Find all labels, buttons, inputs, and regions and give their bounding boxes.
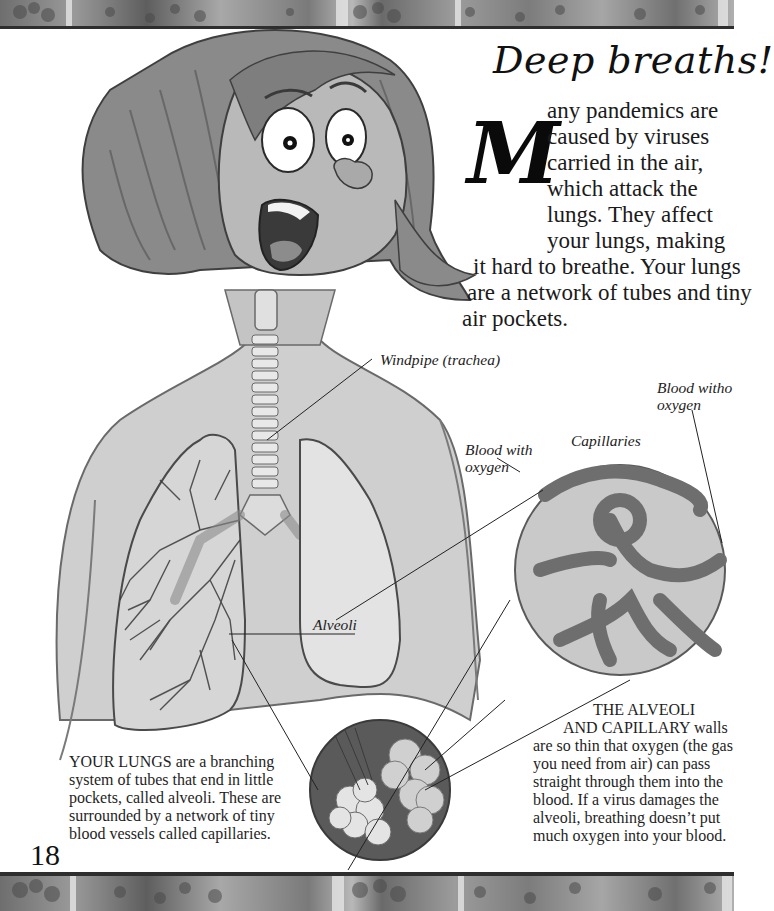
label-line: oxygen (465, 458, 533, 475)
caption-line: YOUR LUNGS are a branching (69, 753, 281, 771)
blood-without-oxygen-label: Blood witho oxygen (657, 379, 732, 413)
label-line: Blood with (465, 441, 533, 458)
alveoli-magnifier (310, 720, 450, 860)
capillary-magnifier (515, 465, 725, 675)
caption-line: blood. If a virus damages the (533, 791, 733, 809)
label-line: Blood witho (657, 379, 732, 396)
capillaries-label: Capillaries (571, 432, 641, 449)
lungs-caption: YOUR LUNGS are a branching system of tub… (69, 753, 281, 843)
caption-line: are so thin that oxygen (the gas (533, 737, 733, 755)
alveoli-walls-caption: THE ALVEOLI AND CAPILLARY walls are so t… (533, 701, 733, 845)
intro-line: air pockets. (462, 304, 568, 334)
caption-line: straight through them into the (533, 773, 733, 791)
caption-line: alveoli, breathing doesn’t put (533, 809, 733, 827)
caption-line: you need from air) can pass (533, 755, 733, 773)
bottom-decorative-border (0, 872, 734, 911)
blood-with-oxygen-label: Blood with oxygen (465, 441, 533, 475)
caption-line: surrounded by a network of tiny (69, 807, 281, 825)
caption-line: pockets, called alveoli. These are (69, 789, 281, 807)
page-title: Deep breaths! (493, 38, 774, 82)
caption-line: blood vessels called capillaries. (69, 825, 281, 843)
alveoli-label: Alveoli (313, 616, 357, 633)
windpipe-label: Windpipe (trachea) (380, 351, 500, 368)
flower-border-pattern-icon (0, 876, 734, 911)
caption-line: system of tubes that end in little (69, 771, 281, 789)
label-line: oxygen (657, 396, 732, 413)
caption-line: AND CAPILLARY walls (533, 719, 733, 737)
caption-line: much oxygen into your blood. (533, 827, 733, 845)
page-number: 18 (30, 838, 60, 872)
caption-line: THE ALVEOLI (533, 701, 733, 719)
